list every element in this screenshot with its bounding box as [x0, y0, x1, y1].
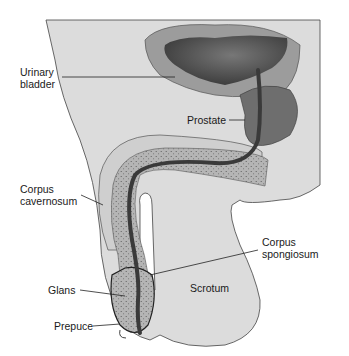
- label-text: cavernosum: [20, 195, 77, 207]
- label-text: bladder: [20, 78, 55, 90]
- label-prostate: Prostate: [187, 114, 226, 126]
- label-glans: Glans: [48, 284, 75, 296]
- leader-prepuce: [93, 324, 120, 326]
- diagram-canvas: Urinary bladder Prostate Corpus cavernos…: [0, 0, 349, 356]
- label-urinary-bladder: Urinary bladder: [20, 66, 55, 90]
- label-text: Corpus: [262, 236, 319, 248]
- label-corpus-cavernosum: Corpus cavernosum: [20, 183, 77, 207]
- label-text: Urinary: [20, 66, 55, 78]
- label-text: Corpus: [20, 183, 77, 195]
- label-prepuce: Prepuce: [54, 320, 93, 332]
- label-corpus-spongiosum: Corpus spongiosum: [262, 236, 319, 260]
- anatomy-illustration: [0, 0, 349, 356]
- glans: [111, 267, 154, 332]
- label-scrotum: Scrotum: [190, 282, 229, 294]
- label-text: spongiosum: [262, 248, 319, 260]
- prepuce: [120, 330, 126, 338]
